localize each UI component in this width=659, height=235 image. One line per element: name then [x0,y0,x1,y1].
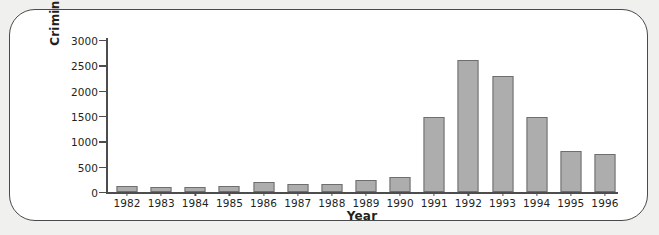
y-axis-tick-labels: 3000 2500 2000 1500 1000 500 0 [48,40,98,192]
x-tick-1993 [502,192,503,196]
x-axis-line [106,192,618,194]
x-tick-label-1985: 1985 [216,197,243,209]
bar-series: 1982 1983 1984 1985 [106,40,618,192]
plot-area: 3000 2500 2000 1500 1000 500 0 1982 1 [106,40,626,192]
bar-slot-1996: 1996 [588,40,622,192]
x-axis-title: Year [106,209,618,223]
x-tick-label-1996: 1996 [591,197,618,209]
x-tick-1989 [365,192,366,196]
x-tick-1982 [126,192,127,196]
x-tick-1991 [434,192,435,196]
x-tick-label-1990: 1990 [387,197,414,209]
bar-slot-1986: 1986 [247,40,281,192]
bar-1989 [355,180,376,192]
y-tick-3000 [99,40,106,41]
x-tick-label-1984: 1984 [182,197,209,209]
x-tick-label-1991: 1991 [421,197,448,209]
x-tick-label-1987: 1987 [284,197,311,209]
bar-slot-1989: 1989 [349,40,383,192]
x-tick-label-1989: 1989 [352,197,379,209]
bar-slot-1994: 1994 [520,40,554,192]
bar-slot-1984: 1984 [178,40,212,192]
y-tick-label-500: 500 [52,163,98,174]
x-tick-1990 [400,192,401,196]
x-tick-1995 [570,192,571,196]
y-tick-1500 [99,116,106,117]
bar-1992 [458,60,479,192]
bar-1990 [390,177,411,192]
x-tick-1984 [195,192,196,196]
bar-slot-1983: 1983 [144,40,178,192]
figure-root: Criminal Offenses 3000 2500 2000 1500 10… [0,0,659,235]
x-tick-1986 [263,192,264,196]
bar-1987 [287,184,308,192]
bar-slot-1995: 1995 [554,40,588,192]
bar-1995 [560,151,581,192]
x-tick-label-1993: 1993 [489,197,516,209]
x-tick-label-1992: 1992 [455,197,482,209]
y-tick-label-0: 0 [52,188,98,199]
y-tick-500 [99,167,106,168]
y-tick-label-1500: 1500 [52,112,98,123]
x-tick-label-1995: 1995 [557,197,584,209]
x-tick-label-1988: 1988 [318,197,345,209]
x-tick-1996 [604,192,605,196]
bar-1991 [424,117,445,192]
x-tick-1994 [536,192,537,196]
bar-1994 [526,117,547,192]
x-tick-label-1986: 1986 [250,197,277,209]
x-tick-1983 [161,192,162,196]
bar-slot-1991: 1991 [417,40,451,192]
bar-1988 [321,184,342,192]
bar-slot-1993: 1993 [485,40,519,192]
y-tick-0 [99,192,106,193]
y-tick-label-2500: 2500 [52,61,98,72]
bar-slot-1990: 1990 [383,40,417,192]
x-tick-label-1994: 1994 [523,197,550,209]
y-tick-1000 [99,141,106,142]
x-tick-1988 [331,192,332,196]
y-tick-2000 [99,91,106,92]
bar-slot-1987: 1987 [281,40,315,192]
x-tick-label-1983: 1983 [148,197,175,209]
x-tick-label-1982: 1982 [114,197,141,209]
bar-slot-1982: 1982 [110,40,144,192]
bar-1993 [492,76,513,192]
y-tick-2500 [99,65,106,66]
bar-slot-1992: 1992 [451,40,485,192]
bar-slot-1985: 1985 [212,40,246,192]
y-tick-label-2000: 2000 [52,87,98,98]
x-tick-1987 [297,192,298,196]
bar-slot-1988: 1988 [315,40,349,192]
x-tick-1992 [468,192,469,196]
bar-1986 [253,182,274,192]
y-tick-label-3000: 3000 [52,36,98,47]
chart-frame: Criminal Offenses 3000 2500 2000 1500 10… [9,9,648,221]
y-tick-label-1000: 1000 [52,137,98,148]
x-tick-1985 [229,192,230,196]
bar-1996 [594,154,615,193]
